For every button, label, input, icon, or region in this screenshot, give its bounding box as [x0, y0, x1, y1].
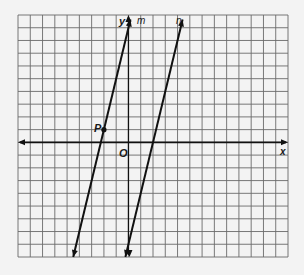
x-axis-arrow-left-icon: [18, 139, 25, 145]
coordinate-plane-figure: y m n x O P: [0, 0, 304, 275]
x-axis-arrow-right-icon: [281, 139, 288, 145]
x-axis-label: x: [280, 147, 286, 157]
line-n: [125, 19, 182, 257]
y-axis-label: y: [119, 16, 125, 27]
points: [101, 127, 106, 132]
origin-label: O: [119, 148, 128, 159]
line-n-label: n: [176, 16, 182, 26]
point-p: [101, 127, 106, 132]
line-m: [73, 19, 130, 257]
point-p-label: P: [94, 123, 101, 134]
grid: [18, 15, 288, 257]
graph-canvas: [0, 0, 304, 275]
line-m-label: m: [137, 16, 145, 26]
